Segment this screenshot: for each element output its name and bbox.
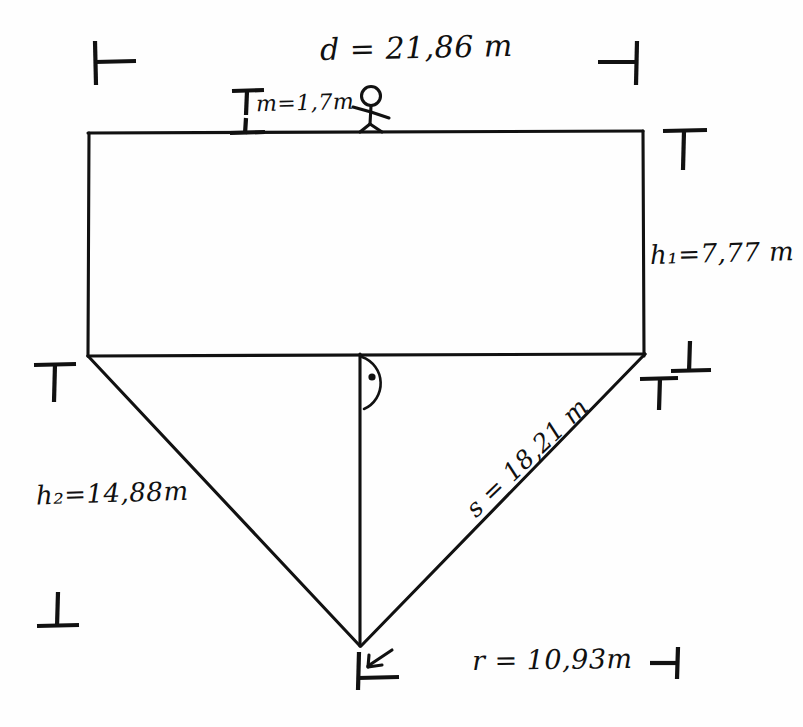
geometry-sketch-canvas: d = 21,86 m m=1,7m h₁=7,77 m h₂=14,88m s… xyxy=(0,0,803,727)
tick-mark-radius-end xyxy=(650,647,678,679)
rectangle-shape xyxy=(88,131,645,356)
diagram-svg xyxy=(0,0,803,727)
crop-mark-top-right xyxy=(598,41,637,85)
label-top-width: d = 21,86 m xyxy=(320,28,513,67)
label-left-height: h₂=14,88m xyxy=(36,476,189,511)
tick-mark-right-middle-lower xyxy=(640,378,678,410)
right-angle-marker xyxy=(362,357,381,409)
tick-mark-right-corner-top xyxy=(663,130,707,170)
apex-arrow-icon xyxy=(368,650,392,667)
tick-mark-right-middle-upper xyxy=(671,341,711,372)
tick-mark-left-middle xyxy=(34,364,76,402)
label-radius: r = 10,93m xyxy=(472,643,633,676)
label-person-height: m=1,7m xyxy=(256,89,355,117)
tick-mark-bottom-left xyxy=(37,592,79,627)
stick-figure-person xyxy=(353,87,389,133)
crop-mark-top-left xyxy=(95,41,136,85)
label-right-height: h₁=7,77 m xyxy=(650,236,795,270)
